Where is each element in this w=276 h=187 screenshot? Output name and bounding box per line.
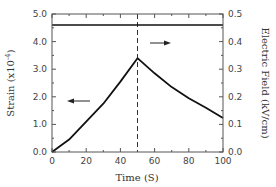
x-tick-label: 40 — [115, 156, 127, 166]
y-left-tick-label: 1.0 — [33, 119, 48, 129]
data-layer — [52, 14, 223, 152]
y-axis-left-label: Strain (x10-4) — [4, 49, 16, 117]
strain-field-chart: 0204060801000.01.02.03.04.05.00.00.10.20… — [0, 0, 276, 187]
y-right-tick-label: 0.4 — [228, 37, 243, 47]
right-arrow-icon — [150, 41, 171, 46]
x-axis-label: Time (S) — [115, 172, 158, 183]
x-tick-label: 80 — [183, 156, 195, 166]
y-right-tick-label: 0.5 — [228, 9, 242, 19]
x-tick-label: 100 — [214, 156, 231, 166]
y-right-tick-label: 0.3 — [228, 64, 242, 74]
y-axis-right-label: Electric Field (kV/cm) — [260, 27, 271, 138]
x-tick-label: 60 — [149, 156, 161, 166]
x-tick-label: 20 — [80, 156, 92, 166]
y-left-tick-label: 0.0 — [33, 147, 48, 157]
x-tick-label: 0 — [49, 156, 55, 166]
y-right-tick-label: 0.2 — [228, 92, 242, 102]
left-arrow-icon — [67, 99, 90, 104]
y-left-tick-label: 3.0 — [33, 64, 48, 74]
y-left-tick-label: 2.0 — [33, 92, 48, 102]
y-left-tick-label: 5.0 — [33, 9, 48, 19]
y-right-tick-label: 0.1 — [228, 119, 242, 129]
y-right-tick-label: 0.0 — [228, 147, 243, 157]
y-left-tick-label: 4.0 — [33, 37, 48, 47]
